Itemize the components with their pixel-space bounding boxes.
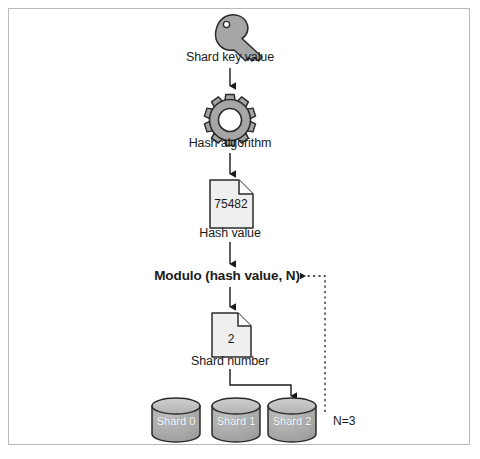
shard-2-label: Shard 2 bbox=[273, 415, 312, 427]
connector-shardnumber-to-shard2 bbox=[230, 369, 291, 396]
hash-algorithm-label: Hash algorithm bbox=[189, 136, 272, 150]
hash-value-number: 75482 bbox=[214, 197, 247, 211]
shard-key-value-label: Shard key value bbox=[186, 50, 274, 64]
shard-1-label: Shard 1 bbox=[217, 415, 256, 427]
shard-number-label: Shard number bbox=[191, 354, 269, 368]
connector-n-feedback-dashed bbox=[301, 276, 325, 412]
shard-0-label: Shard 0 bbox=[157, 415, 196, 427]
shard-number-value: 2 bbox=[228, 332, 235, 346]
n-value-annotation: N=3 bbox=[333, 414, 355, 428]
modulo-expression-label: Modulo (hash value, N) bbox=[154, 269, 300, 283]
diagram-figure: Shard key value Hash algorithm 75482 Has… bbox=[0, 0, 480, 459]
hash-value-label: Hash value bbox=[199, 226, 261, 240]
